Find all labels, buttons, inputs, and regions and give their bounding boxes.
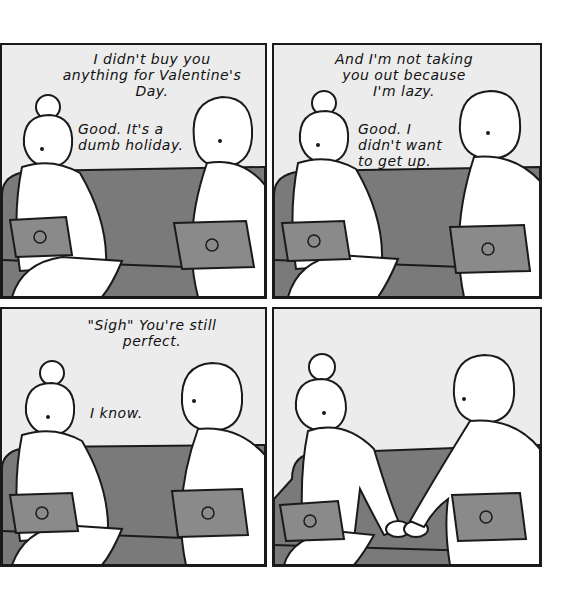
comic-panel-4 bbox=[272, 307, 542, 567]
speech-man: "Sigh" You're still perfect. bbox=[52, 317, 252, 349]
speech-woman: Good. It's a dumb holiday. bbox=[78, 121, 208, 153]
comic-panel-1: I didn't buy you anything for Valentine'… bbox=[0, 43, 267, 299]
speech-woman: And I'm not taking you out because I'm l… bbox=[284, 51, 524, 99]
speech-man: I didn't buy you anything for Valentine'… bbox=[42, 51, 262, 99]
couch-holding-hands-illustration bbox=[274, 309, 540, 565]
speech-man: Good. I didn't want to get up. bbox=[358, 121, 468, 169]
speech-woman: I know. bbox=[90, 405, 170, 421]
comic-panel-3: "Sigh" You're still perfect. I know. bbox=[0, 307, 267, 567]
comic-panel-2: And I'm not taking you out because I'm l… bbox=[272, 43, 542, 299]
